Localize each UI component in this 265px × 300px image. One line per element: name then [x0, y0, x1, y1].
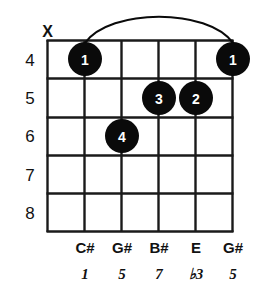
finger-dot-label: 1: [229, 52, 237, 68]
interval-labels: 1 5 7 ♭3 5: [81, 266, 237, 282]
fret-number-label: 5: [25, 89, 34, 108]
interval-label-string-4: 7: [155, 266, 163, 282]
fret-number-label: 7: [25, 166, 34, 185]
finger-dot-string-6-fret-4[interactable]: 1: [216, 42, 250, 76]
finger-dot-string-5-fret-5[interactable]: 2: [179, 81, 213, 115]
fret-number-label: 8: [25, 204, 34, 223]
interval-label-string-2: 1: [81, 266, 89, 282]
note-name-label-string-6: G#: [223, 239, 244, 256]
note-name-label-string-5: E: [191, 239, 201, 256]
interval-label-string-3: 5: [118, 266, 126, 282]
barre-arc: [85, 17, 233, 43]
chord-diagram: X 4 5 6 7 8 1 1 3 2 4: [0, 0, 265, 300]
muted-string-marker-string-1: X: [42, 23, 53, 40]
note-name-label-string-3: G#: [112, 239, 133, 256]
interval-label-string-6: 5: [229, 266, 237, 282]
note-name-label-string-4: B#: [149, 239, 169, 256]
finger-dot-string-4-fret-5[interactable]: 3: [142, 81, 176, 115]
fret-number-label: 6: [25, 127, 34, 146]
interval-label-string-5: ♭3: [189, 266, 204, 282]
finger-dot-label: 4: [118, 129, 126, 145]
finger-dot-string-3-fret-6[interactable]: 4: [105, 119, 139, 153]
note-name-labels: C# G# B# E G#: [75, 239, 243, 256]
finger-dot-label: 2: [192, 91, 200, 107]
fret-number-label: 4: [25, 51, 34, 70]
finger-dot-string-2-fret-4[interactable]: 1: [68, 42, 102, 76]
finger-dot-label: 3: [155, 91, 163, 107]
fret-number-labels: 4 5 6 7 8: [25, 51, 34, 223]
note-name-label-string-2: C#: [75, 239, 95, 256]
finger-dot-label: 1: [81, 52, 89, 68]
